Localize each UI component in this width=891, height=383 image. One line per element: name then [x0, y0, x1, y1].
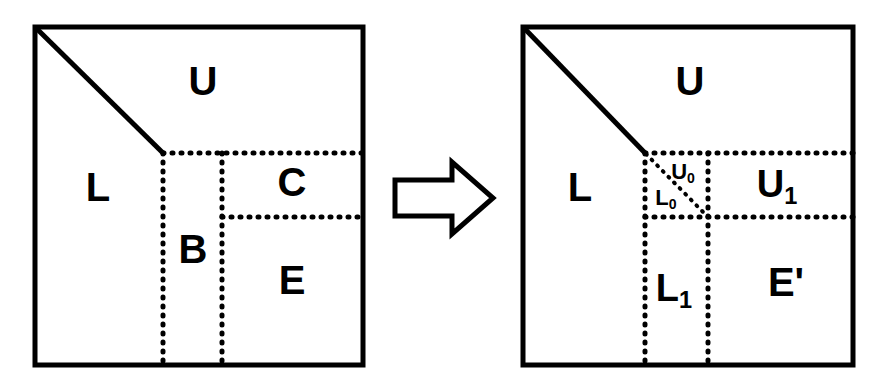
figure-root: U L B C E U L U0 [0, 0, 891, 383]
after-label-U0: U0 [671, 159, 695, 186]
after-panel: U L U0 L0 U1 L1 E' [523, 27, 853, 365]
before-diagonal-line [36, 28, 164, 154]
after-label-E-prime: E' [768, 260, 804, 304]
after-label-U1: U1 [757, 163, 798, 209]
after-label-L1-base: L [656, 267, 679, 309]
after-label-U0-subscript: 0 [687, 170, 695, 186]
before-panel: U L B C E [35, 27, 363, 365]
after-label-L: L [568, 165, 592, 209]
before-label-U: U [189, 59, 218, 103]
before-label-L: L [86, 165, 110, 209]
after-label-L1-subscript: 1 [679, 287, 692, 313]
before-label-B: B [179, 227, 208, 271]
figure-canvas: U L B C E U L U0 [0, 0, 891, 383]
after-label-U1-base: U [757, 163, 784, 205]
after-label-U1-subscript: 1 [784, 183, 797, 209]
after-diagonal-line [524, 28, 646, 154]
after-label-U0-base: U [671, 159, 687, 184]
transform-arrow [395, 162, 493, 234]
after-label-L1: L1 [656, 267, 692, 313]
after-label-U: U [676, 59, 705, 103]
before-label-C: C [278, 160, 307, 204]
arrow-right-icon [395, 162, 493, 234]
after-label-L0-base: L [655, 185, 668, 210]
after-label-L0-subscript: 0 [669, 196, 677, 212]
after-label-L0: L0 [655, 185, 676, 212]
before-label-E: E [279, 258, 306, 302]
